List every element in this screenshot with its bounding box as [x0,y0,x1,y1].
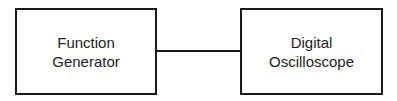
function-generator-box: Function Generator [15,8,157,95]
digital-oscilloscope-box: Digital Oscilloscope [240,8,383,95]
connection-line [157,50,241,52]
function-generator-label: Function Generator [52,33,120,71]
digital-oscilloscope-label: Digital Oscilloscope [269,33,354,71]
